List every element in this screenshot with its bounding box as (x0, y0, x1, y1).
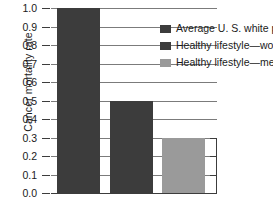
y-axis-tick-label: 0.5 (3, 96, 37, 106)
y-axis-tick (42, 138, 50, 139)
bar (110, 101, 153, 194)
right-axis-tick (210, 138, 217, 139)
y-axis-tick (42, 82, 50, 83)
y-axis-tick (42, 119, 50, 120)
right-axis-tick (210, 193, 217, 194)
y-axis-tick (42, 27, 50, 28)
y-axis-tick-label: 0.3 (3, 133, 37, 143)
legend-item-label: Healthy lifestyle—men (176, 57, 273, 68)
y-axis-tick (42, 156, 50, 157)
y-axis-tick-label: 0.6 (3, 77, 37, 87)
y-axis-tick-label: 0.1 (3, 170, 37, 180)
legend-item-label: Average U. S. white population (176, 23, 273, 34)
y-axis-tick-label: 0.4 (3, 114, 37, 124)
y-axis-tick (42, 8, 50, 9)
legend-swatch-icon (160, 59, 171, 67)
legend-swatch-icon (160, 25, 171, 33)
legend-item: Healthy lifestyle—women (160, 37, 273, 54)
y-axis-tick-label: 0.8 (3, 40, 37, 50)
y-axis-tick (42, 101, 50, 102)
bar (162, 138, 205, 194)
y-axis-tick (42, 175, 50, 176)
right-axis-tick (210, 175, 217, 176)
y-axis-tick (42, 45, 50, 46)
y-axis-tick-label: 0.0 (3, 188, 37, 198)
y-axis-tick-label: 0.2 (3, 151, 37, 161)
y-axis-tick (42, 64, 50, 65)
legend-swatch-icon (160, 42, 171, 50)
gridline (51, 193, 217, 194)
y-axis-tick-label: 0.9 (3, 22, 37, 32)
bar-chart-figure: Cancer mortality rate 1.00.90.80.70.60.5… (0, 0, 273, 207)
y-axis-tick-label: 1.0 (3, 3, 37, 13)
y-axis-tick-label: 0.7 (3, 59, 37, 69)
y-axis-tick (42, 193, 50, 194)
legend-item: Healthy lifestyle—men (160, 54, 273, 71)
bar (57, 8, 100, 193)
right-axis-spine (216, 138, 217, 193)
right-axis-tick (210, 156, 217, 157)
legend-item-label: Healthy lifestyle—women (176, 40, 273, 51)
legend-item: Average U. S. white population (160, 20, 273, 37)
plot-area: Average U. S. white populationHealthy li… (51, 8, 217, 193)
chart-legend: Average U. S. white populationHealthy li… (160, 20, 273, 71)
